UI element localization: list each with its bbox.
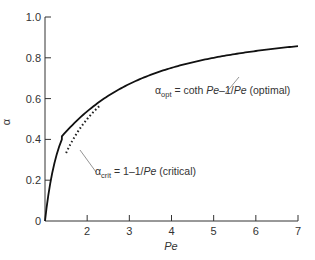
x-tick-label: 4 (168, 225, 174, 237)
y-tick-label: 0 (35, 215, 41, 227)
critical-curve (66, 106, 100, 153)
x-tick-label: 6 (253, 225, 259, 237)
y-tick-label: 0.6 (26, 93, 41, 105)
chart-svg: 00.20.40.60.81.0 234567 α Pe αopt = coth… (0, 0, 315, 260)
y-tick-label: 0.4 (26, 133, 41, 145)
x-tick-label: 3 (126, 225, 132, 237)
y-tick-label: 1.0 (26, 11, 41, 23)
optimal-annotation: αopt = coth Pe–1/Pe (optimal) (155, 84, 290, 99)
x-axis-label: Pe (164, 240, 177, 252)
x-tick-label: 5 (211, 225, 217, 237)
critical-leader-line (80, 150, 96, 172)
chart: 00.20.40.60.81.0 234567 α Pe αopt = coth… (0, 0, 315, 260)
optimal-curve (45, 46, 298, 221)
y-axis-label: α (0, 118, 12, 125)
y-tick-label: 0.2 (26, 174, 41, 186)
x-ticks: 234567 (84, 215, 301, 237)
y-ticks: 00.20.40.60.81.0 (26, 11, 51, 227)
x-tick-label: 7 (295, 225, 301, 237)
y-tick-label: 0.8 (26, 52, 41, 64)
critical-annotation: αcrit = 1–1/Pe (critical) (95, 165, 196, 180)
x-tick-label: 2 (84, 225, 90, 237)
